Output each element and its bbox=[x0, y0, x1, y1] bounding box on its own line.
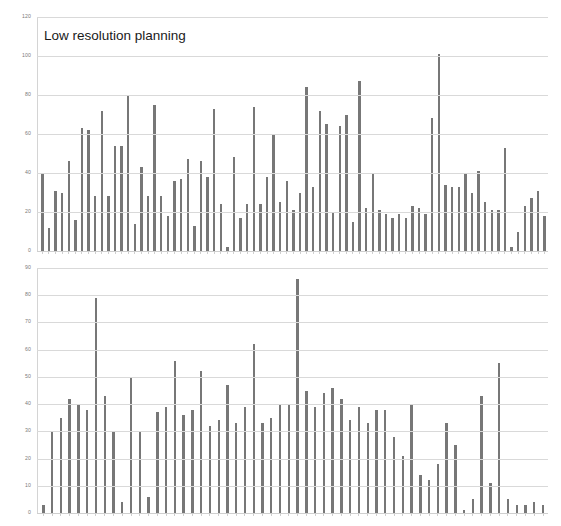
x-tick-mark bbox=[95, 514, 96, 516]
bar-series-high-resolution bbox=[39, 268, 548, 513]
bar-slot bbox=[206, 268, 215, 513]
bar-slot bbox=[363, 268, 372, 513]
y-axis-line-high bbox=[37, 268, 38, 513]
bar-slot bbox=[320, 268, 329, 513]
bar bbox=[537, 191, 539, 251]
x-tick-mark bbox=[455, 514, 456, 516]
bar-slot bbox=[144, 268, 153, 513]
gridline bbox=[37, 295, 548, 296]
x-tick-mark bbox=[200, 252, 201, 254]
x-tick-mark bbox=[280, 514, 281, 516]
x-tick-slot bbox=[249, 514, 258, 516]
x-tick-slot bbox=[151, 252, 158, 254]
x-tick-mark bbox=[498, 252, 499, 254]
bar bbox=[325, 124, 327, 251]
x-tick-slot bbox=[171, 252, 178, 254]
x-tick-mark bbox=[280, 252, 281, 254]
bar bbox=[213, 109, 215, 251]
bar bbox=[60, 418, 62, 513]
bar-slot bbox=[398, 268, 407, 513]
x-tick-slot bbox=[528, 252, 535, 254]
x-tick-mark bbox=[139, 514, 140, 516]
x-tick-mark bbox=[81, 252, 82, 254]
bar bbox=[104, 396, 106, 513]
x-tick-slot bbox=[539, 514, 548, 516]
y-axis-low-resolution: 020406080100120 bbox=[0, 0, 34, 262]
x-tick-mark bbox=[425, 252, 426, 254]
x-tick-slot bbox=[145, 252, 152, 254]
x-tick-mark bbox=[372, 252, 373, 254]
x-tick-mark bbox=[207, 252, 208, 254]
x-tick-slot bbox=[389, 252, 396, 254]
x-tick-slot bbox=[381, 514, 390, 516]
x-tick-slot bbox=[52, 252, 59, 254]
x-tick-slot bbox=[486, 514, 495, 516]
x-tick-mark bbox=[458, 252, 459, 254]
x-tick-slot bbox=[165, 252, 172, 254]
x-tick-mark bbox=[516, 514, 517, 516]
bar-slot bbox=[135, 268, 144, 513]
bar bbox=[51, 431, 53, 513]
x-tick-slot bbox=[258, 514, 267, 516]
x-tick-mark bbox=[134, 252, 135, 254]
x-tick-mark bbox=[333, 252, 334, 254]
x-tick-slot bbox=[65, 252, 72, 254]
x-tick-mark bbox=[341, 514, 342, 516]
x-tick-slot bbox=[495, 252, 502, 254]
x-tick-mark bbox=[192, 514, 193, 516]
bar-slot bbox=[197, 268, 206, 513]
x-tick-slot bbox=[469, 252, 476, 254]
x-tick-mark bbox=[87, 514, 88, 516]
bar bbox=[471, 193, 473, 252]
bar bbox=[114, 146, 116, 251]
x-tick-mark bbox=[174, 252, 175, 254]
y-axis-tick-label: 0 bbox=[28, 510, 31, 515]
x-tick-slot bbox=[302, 514, 311, 516]
x-tick-slot bbox=[109, 514, 118, 516]
x-tick-mark bbox=[240, 252, 241, 254]
x-tick-slot bbox=[79, 252, 86, 254]
bar-slot bbox=[249, 268, 258, 513]
x-tick-mark bbox=[43, 514, 44, 516]
x-tick-mark bbox=[60, 514, 61, 516]
bar-slot bbox=[57, 268, 66, 513]
x-tick-slot bbox=[535, 252, 542, 254]
x-tick-slot bbox=[118, 514, 127, 516]
x-tick-mark bbox=[313, 252, 314, 254]
x-tick-slot bbox=[369, 252, 376, 254]
bar bbox=[200, 371, 202, 513]
bar bbox=[272, 134, 274, 251]
x-tick-mark bbox=[352, 252, 353, 254]
bar-slot bbox=[521, 268, 530, 513]
x-tick-slot bbox=[237, 252, 244, 254]
x-tick-mark bbox=[220, 252, 221, 254]
bar bbox=[444, 185, 446, 251]
x-tick-mark bbox=[419, 252, 420, 254]
x-tick-slot bbox=[105, 252, 112, 254]
bar bbox=[424, 214, 426, 251]
bar bbox=[418, 208, 420, 251]
x-tick-slot bbox=[74, 514, 83, 516]
x-tick-mark bbox=[69, 514, 70, 516]
bar bbox=[253, 107, 255, 251]
bar-slot bbox=[425, 268, 434, 513]
x-tick-slot bbox=[39, 252, 46, 254]
bar-slot bbox=[214, 268, 223, 513]
x-tick-slot bbox=[409, 252, 416, 254]
x-tick-slot bbox=[118, 252, 125, 254]
bar-slot bbox=[530, 268, 539, 513]
bar-slot bbox=[302, 268, 311, 513]
x-tick-mark bbox=[131, 514, 132, 516]
bar bbox=[233, 157, 235, 251]
bar bbox=[375, 410, 377, 513]
bar-slot bbox=[469, 268, 478, 513]
x-tick-slot bbox=[39, 514, 48, 516]
x-tick-mark bbox=[315, 514, 316, 516]
bar bbox=[81, 128, 83, 251]
x-tick-slot bbox=[323, 252, 330, 254]
bar bbox=[292, 210, 294, 251]
x-tick-slot bbox=[433, 514, 442, 516]
bar bbox=[367, 423, 369, 513]
bar bbox=[42, 505, 44, 513]
bar bbox=[480, 396, 482, 513]
